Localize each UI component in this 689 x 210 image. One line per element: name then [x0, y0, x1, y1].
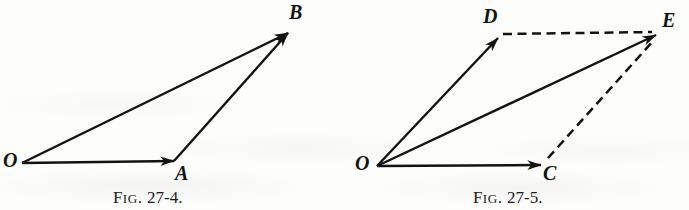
figure-27-4-drawing: [0, 0, 345, 210]
caption-number-fig4: 27-4.: [147, 188, 182, 207]
vertex-label-O-fig5: O: [355, 153, 369, 173]
vertex-label-D-fig5: D: [483, 6, 497, 26]
figure-sheet: O A B FIG. 27-4.: [0, 0, 689, 210]
vertex-label-O-fig4: O: [3, 150, 17, 170]
figure-27-5-drawing: [345, 0, 689, 210]
construction-line-D-to-E: [503, 32, 652, 34]
figure-27-5: O C D E FIG. 27-5.: [345, 0, 689, 210]
vertex-label-C-fig5: C: [543, 163, 556, 183]
caption-period-fig4: .: [138, 188, 143, 207]
caption-lead-letter-fig4: F: [113, 188, 123, 207]
caption-lead-letter-fig5: F: [473, 188, 483, 207]
vector-O-to-B-resultant: [22, 33, 288, 163]
vector-A-to-B: [174, 33, 288, 161]
vertex-label-B-fig4: B: [289, 2, 302, 22]
caption-small-caps-fig4: IG: [123, 191, 138, 206]
vector-O-to-E-resultant: [377, 35, 656, 166]
caption-period-fig5: .: [498, 188, 503, 207]
construction-line-C-to-E: [548, 40, 654, 158]
figure-27-4: O A B FIG. 27-4.: [0, 0, 345, 210]
vertex-label-E-fig5: E: [662, 10, 675, 30]
caption-number-fig5: 27-5.: [507, 188, 542, 207]
vector-O-to-D: [377, 38, 498, 166]
vector-O-to-C: [377, 165, 541, 166]
caption-small-caps-fig5: IG: [483, 191, 498, 206]
vertex-label-A-fig4: A: [175, 163, 188, 183]
vector-O-to-A: [22, 161, 174, 163]
figure-caption-27-5: FIG. 27-5.: [473, 189, 543, 206]
figure-caption-27-4: FIG. 27-4.: [113, 189, 183, 206]
